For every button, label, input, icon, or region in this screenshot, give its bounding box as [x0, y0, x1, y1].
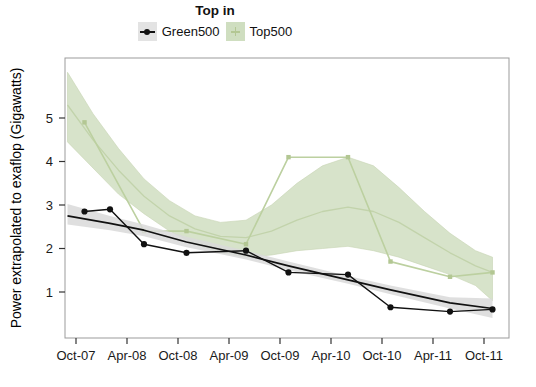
x-tick-label: Oct-10 — [362, 348, 401, 363]
top500-data-point — [388, 259, 392, 263]
x-tick-label: Apr-08 — [107, 348, 146, 363]
green500-data-point — [489, 306, 495, 312]
top500-data-point — [184, 229, 188, 233]
legend-entry-top500: Top500 — [226, 22, 293, 41]
green500-data-point — [387, 304, 393, 310]
y-tick-label: 3 — [46, 198, 53, 213]
y-axis-title: Power extrapolated to exaflop (Gigawatts… — [8, 68, 24, 329]
x-tick-label: Apr-11 — [414, 348, 452, 363]
green500-data-point — [81, 208, 87, 214]
green500-data-point — [243, 248, 249, 254]
green500-data-point — [107, 206, 113, 212]
x-tick-label: Apr-10 — [311, 348, 350, 363]
legend-entries: Green500 Top500 — [138, 22, 292, 41]
top500-key-icon — [226, 22, 245, 41]
green500-data-point — [183, 250, 189, 256]
y-tick-label: 1 — [46, 285, 53, 300]
x-tick-label: Apr-09 — [209, 348, 248, 363]
x-tick-label: Oct-09 — [260, 348, 299, 363]
legend-label-green500: Green500 — [162, 24, 220, 39]
top500-data-point — [244, 242, 248, 246]
plot-canvas: 12345Oct-07Apr-08Oct-08Apr-09Oct-09Apr-1… — [0, 0, 536, 387]
y-tick-label: 2 — [46, 241, 53, 256]
legend: Top in Green500 Top500 — [130, 3, 300, 41]
green500-data-point — [141, 241, 147, 247]
green500-data-point — [447, 308, 453, 314]
top500-data-point — [490, 270, 494, 274]
green500-key-icon — [138, 22, 157, 41]
legend-title: Top in — [195, 3, 235, 18]
top500-data-point — [82, 120, 86, 124]
x-tick-label: Oct-08 — [158, 348, 197, 363]
top500-data-point — [448, 275, 452, 279]
legend-entry-green500: Green500 — [138, 22, 220, 41]
top500-data-point — [346, 155, 350, 159]
y-tick-label: 4 — [46, 154, 53, 169]
green500-data-point — [345, 272, 351, 278]
legend-label-top500: Top500 — [250, 24, 293, 39]
top500-data-point — [286, 155, 290, 159]
y-tick-label: 5 — [46, 111, 53, 126]
chart-figure: 12345Oct-07Apr-08Oct-08Apr-09Oct-09Apr-1… — [0, 0, 536, 387]
green500-data-point — [285, 269, 291, 275]
x-tick-label: Oct-11 — [465, 348, 503, 363]
x-tick-label: Oct-07 — [56, 348, 95, 363]
